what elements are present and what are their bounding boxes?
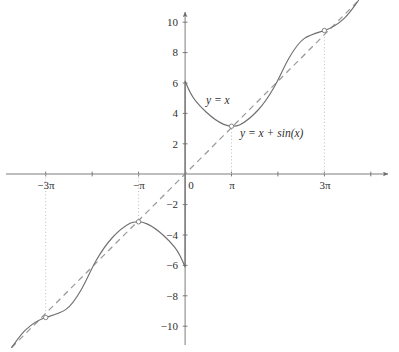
y-tick-label-neg6: −6 xyxy=(152,260,178,271)
chart-figure: 10 8 6 4 2 −2 −4 −6 −8 −10 −3π −π 0 π 3π… xyxy=(0,0,399,352)
y-tick-label-4: 4 xyxy=(152,108,178,119)
y-tick-label-neg2: −2 xyxy=(152,199,178,210)
sine-sum-curve-label: y = x + sin(x) xyxy=(240,128,303,140)
y-tick-label-neg8: −8 xyxy=(152,291,178,302)
y-tick-label-10: 10 xyxy=(152,17,178,28)
y-tick-label-neg10: −10 xyxy=(152,321,178,332)
x-tick-label-zero: 0 xyxy=(170,180,212,191)
y-tick-label-2: 2 xyxy=(152,139,178,150)
y-tick-label-6: 6 xyxy=(152,78,178,89)
marker-pi xyxy=(229,124,233,128)
marker-negpi xyxy=(136,220,140,224)
plot-area xyxy=(0,0,399,352)
identity-line-label: y = x xyxy=(206,95,230,107)
figure-caption xyxy=(0,344,399,352)
marker-neg3pi xyxy=(44,315,48,319)
x-tick-label-negpi: −π xyxy=(118,180,160,191)
x-axis xyxy=(6,172,388,177)
x-tick-label-3pi: 3π xyxy=(304,180,346,191)
x-tick-label-neg3pi: −3π xyxy=(25,180,67,191)
x-tick-label-pi: π xyxy=(211,180,253,191)
marker-3pi xyxy=(322,28,326,32)
y-tick-label-8: 8 xyxy=(152,47,178,58)
y-tick-label-neg4: −4 xyxy=(152,230,178,241)
